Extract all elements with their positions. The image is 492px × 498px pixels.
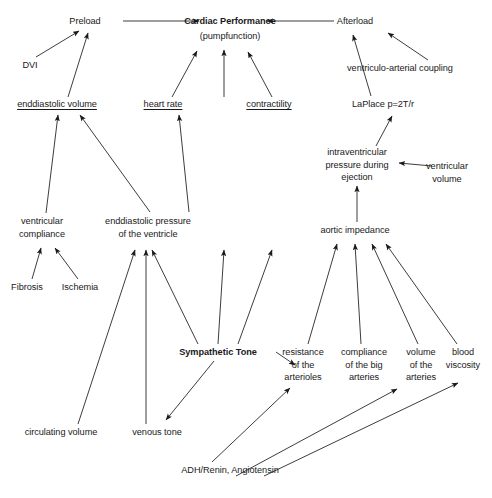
edge-resistance-to-aortimp bbox=[308, 244, 337, 344]
edge-edp-to-edv bbox=[80, 115, 150, 212]
node-fibrosis: Fibrosis bbox=[0, 281, 55, 294]
node-symptone: Sympathetic Tone bbox=[163, 346, 273, 359]
node-vcompliance: ventricular compliance bbox=[2, 215, 82, 240]
edge-symptone-to-hr3 bbox=[218, 250, 224, 344]
edge-fibrosis-to-vcompliance bbox=[32, 248, 41, 279]
node-venoustone: venous tone bbox=[120, 426, 195, 439]
node-ventvol: ventricular volume bbox=[407, 160, 487, 185]
edge-adh-to-viscosity bbox=[264, 383, 458, 476]
edge-contractility-to-cardiac bbox=[248, 52, 272, 97]
edge-vac-to-afterload bbox=[388, 33, 428, 60]
node-vac: ventriculo-arterial coupling bbox=[310, 62, 490, 75]
node-laplace: LaPlace p=2T/r bbox=[333, 98, 433, 111]
node-circvol: circulating volume bbox=[9, 426, 114, 439]
edge-volarteries-to-aortimp bbox=[372, 244, 418, 344]
node-aortimp: aortic impedance bbox=[300, 224, 410, 237]
node-viscosity: blood viscosity bbox=[434, 346, 492, 371]
edge-viscosity-to-aortimp bbox=[386, 244, 457, 344]
edge-symptone-to-contract2 bbox=[238, 250, 272, 344]
edge-compliance-to-aortimp bbox=[355, 244, 361, 344]
node-dvi: DVI bbox=[10, 59, 50, 72]
edge-adh-to-resistance bbox=[212, 388, 290, 462]
edge-edv-to-preload bbox=[68, 33, 88, 97]
node-ivp: intraventricular pressure during ejectio… bbox=[307, 146, 407, 184]
node-ischemia: Ischemia bbox=[50, 281, 110, 294]
node-hr: heart rate bbox=[128, 98, 198, 111]
edge-dvi-to-preload bbox=[36, 31, 79, 57]
node-edp: enddiastolic pressure of the ventricle bbox=[88, 215, 208, 240]
node-adh: ADH/Renin, Angiotensin bbox=[165, 464, 295, 477]
edge-adh-to-volarteries bbox=[236, 389, 397, 476]
node-compliance: compliance of the big arteries bbox=[328, 346, 400, 384]
edge-ischemia-to-vcompliance bbox=[55, 248, 78, 279]
node-afterload: Afterload bbox=[320, 15, 390, 28]
edge-ivp-to-laplace bbox=[376, 116, 392, 146]
edge-symptone-to-edp bbox=[152, 250, 198, 344]
edge-edp-to-hr2 bbox=[179, 115, 189, 212]
edge-group bbox=[32, 21, 458, 476]
diagram-arrows-layer bbox=[0, 0, 492, 498]
edge-vcompliance-to-edv bbox=[46, 115, 58, 213]
node-pumpfunction: (pumpfunction) bbox=[170, 30, 290, 43]
edge-hr-to-cardiac bbox=[172, 51, 197, 97]
edge-circvol-to-edp bbox=[78, 250, 135, 424]
node-edv: enddiastolic volume bbox=[2, 98, 112, 111]
node-contractility: contractility bbox=[232, 98, 307, 111]
node-cardiac: Cardiac Performance bbox=[165, 15, 295, 28]
diagram-canvas: PreloadCardiac Performance(pumpfunction)… bbox=[0, 0, 492, 498]
node-preload: Preload bbox=[50, 15, 120, 28]
edge-symptone-to-venoustone bbox=[166, 361, 214, 420]
